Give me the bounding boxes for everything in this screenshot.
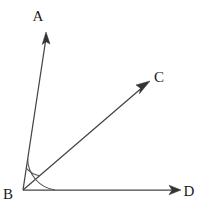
angle-figure-svg: A B C D <box>0 0 202 206</box>
label-b: B <box>3 186 13 202</box>
ray-ba-line <box>23 38 46 190</box>
angle-diagram-canvas: A B C D <box>0 0 202 206</box>
ray-ba-arrowhead <box>42 32 50 45</box>
inner-arc-abc <box>26 168 40 175</box>
label-d: D <box>184 183 195 199</box>
label-a: A <box>33 8 44 24</box>
ray-bc-line <box>23 86 144 190</box>
label-c: C <box>154 69 164 85</box>
